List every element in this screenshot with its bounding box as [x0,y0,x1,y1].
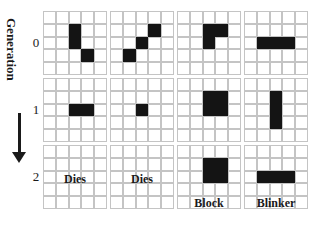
dead-cell [94,104,107,117]
live-cell [257,37,270,50]
dead-cell [94,37,107,50]
dead-cell [295,183,308,196]
dead-cell [257,11,270,24]
dead-cell [203,116,216,129]
dead-cell [190,24,203,37]
live-cell [69,37,82,50]
dead-cell [43,37,56,50]
pattern-3-gen-0-grid [177,11,241,75]
live-cell [203,91,216,104]
dead-cell [282,78,295,91]
dead-cell [69,91,82,104]
dead-cell [244,116,257,129]
dead-cell [148,129,161,142]
dead-cell [81,116,94,129]
dead-cell [295,91,308,104]
generation-arrow-shaft [18,113,21,155]
dead-cell [94,196,107,209]
dead-cell [69,62,82,75]
live-cell [215,91,228,104]
dead-cell [228,11,241,24]
dead-cell [177,91,190,104]
dead-cell [257,104,270,117]
dead-cell [270,49,283,62]
dead-cell [148,49,161,62]
live-cell [81,104,94,117]
dead-cell [215,129,228,142]
dead-cell [43,49,56,62]
dead-cell [43,196,56,209]
dead-cell [81,129,94,142]
dead-cell [110,49,123,62]
dead-cell [148,116,161,129]
live-cell [215,158,228,171]
dead-cell [190,78,203,91]
live-cell [203,171,216,184]
dead-cell [177,62,190,75]
dead-cell [56,158,69,171]
dead-cell [295,78,308,91]
dead-cell [81,145,94,158]
dead-cell [136,24,149,37]
dead-cell [190,145,203,158]
dead-cell [203,78,216,91]
dead-cell [110,104,123,117]
dead-cell [56,196,69,209]
dead-cell [295,129,308,142]
dead-cell [228,78,241,91]
dead-cell [110,158,123,171]
dead-cell [177,183,190,196]
dead-cell [228,129,241,142]
dead-cell [244,171,257,184]
dead-cell [203,62,216,75]
dead-cell [148,62,161,75]
dead-cell [110,116,123,129]
dead-cell [94,24,107,37]
dead-cell [295,62,308,75]
dead-cell [43,11,56,24]
dead-cell [177,24,190,37]
dead-cell [56,129,69,142]
dead-cell [43,62,56,75]
dead-cell [203,129,216,142]
dead-cell [56,78,69,91]
dead-cell [148,104,161,117]
dead-cell [136,145,149,158]
dead-cell [43,129,56,142]
dead-cell [270,129,283,142]
dead-cell [244,24,257,37]
dead-cell [257,78,270,91]
dead-cell [177,49,190,62]
dead-cell [148,78,161,91]
dead-cell [203,145,216,158]
dead-cell [110,78,123,91]
dead-cell [56,145,69,158]
dead-cell [43,24,56,37]
dead-cell [190,91,203,104]
dead-cell [177,145,190,158]
dead-cell [123,129,136,142]
dead-cell [203,11,216,24]
dead-cell [228,145,241,158]
dead-cell [161,116,174,129]
dead-cell [161,196,174,209]
caption-dies-2: Dies [110,172,174,187]
dead-cell [228,158,241,171]
dead-cell [69,49,82,62]
dead-cell [161,78,174,91]
dead-cell [295,171,308,184]
dead-cell [282,104,295,117]
dead-cell [110,91,123,104]
dead-cell [190,11,203,24]
dead-cell [282,129,295,142]
dead-cell [56,104,69,117]
dead-cell [295,104,308,117]
dead-cell [43,145,56,158]
dead-cell [190,104,203,117]
dead-cell [161,158,174,171]
dead-cell [295,158,308,171]
dead-cell [282,62,295,75]
pattern-4-gen-1-grid [244,78,308,142]
dead-cell [257,183,270,196]
pattern-2-gen-1-grid [110,78,174,142]
